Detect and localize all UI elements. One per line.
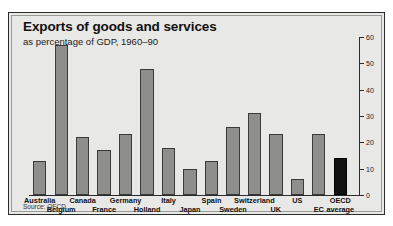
bar-italy: [162, 148, 175, 195]
y-tick-label: 60: [366, 34, 374, 41]
y-tick: [359, 37, 364, 38]
y-tick-label: 40: [366, 86, 374, 93]
bar-canada: [76, 137, 89, 195]
chart-figure: Exports of goods and services as percent…: [8, 12, 385, 215]
bar-sweden: [226, 127, 239, 195]
x-tick-label: OECDaverage: [326, 197, 354, 214]
bar-uk: [269, 134, 282, 195]
x-tick-label: UK: [271, 206, 282, 215]
bar-us: [291, 179, 304, 195]
y-tick-label: 50: [366, 60, 374, 67]
chart-source: Source: OECD: [23, 203, 66, 210]
bar-ec-average: [312, 134, 325, 195]
x-tick-label: Italy: [161, 197, 176, 206]
bar-belgium: [55, 45, 68, 195]
y-tick: [359, 116, 364, 117]
bar-germany: [119, 134, 132, 195]
x-tick-label: Japan: [179, 206, 200, 215]
y-axis: 0102030405060: [359, 37, 385, 195]
x-tick-label: Holland: [134, 206, 161, 215]
y-tick: [359, 142, 364, 143]
bar-japan: [183, 169, 196, 195]
plot-area: [29, 37, 351, 195]
x-tick-label: Sweden: [219, 206, 247, 215]
y-tick-label: 30: [366, 113, 374, 120]
bar-oecd-average: [334, 158, 347, 195]
chart-title: Exports of goods and services: [23, 19, 217, 34]
y-tick-label: 20: [366, 139, 374, 146]
y-tick: [359, 90, 364, 91]
y-tick-label: 10: [366, 165, 374, 172]
x-tick-label: Switzerland: [234, 197, 275, 206]
bar-australia: [33, 161, 46, 195]
y-tick: [359, 63, 364, 64]
x-tick-label: France: [92, 206, 116, 215]
bar-switzerland: [248, 113, 261, 195]
bar-holland: [140, 69, 153, 195]
bar-spain: [205, 161, 218, 195]
y-tick: [359, 195, 364, 196]
y-tick: [359, 169, 364, 170]
bar-france: [97, 150, 110, 195]
x-tick-label: US: [292, 197, 302, 206]
